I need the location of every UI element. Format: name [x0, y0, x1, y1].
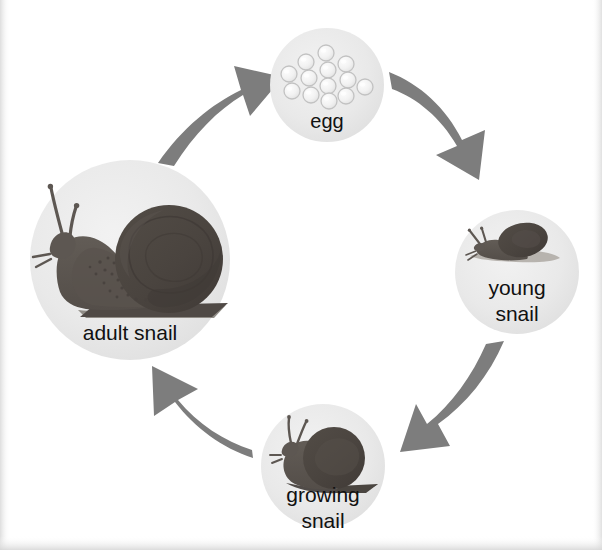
stage-adult-snail[interactable]: adult snail — [30, 160, 230, 360]
stage-growing-snail[interactable]: growing snail — [261, 404, 385, 532]
arrow-young-to-growing — [400, 341, 504, 452]
stage-young-snail[interactable]: young snail — [455, 210, 579, 334]
arrow-egg-to-young — [389, 72, 485, 180]
arrow-adult-to-egg — [158, 66, 283, 166]
stage-label-growing-snail-line1: growing — [286, 483, 360, 506]
stage-label-egg: egg — [310, 110, 343, 132]
life-cycle-canvas: egg — [0, 0, 602, 550]
arrow-growing-to-adult — [152, 366, 253, 458]
stage-label-growing-snail-line2: snail — [301, 509, 344, 532]
stage-egg[interactable]: egg — [270, 28, 384, 142]
stage-label-young-snail-line2: snail — [495, 302, 538, 325]
stage-label-young-snail-line1: young — [488, 276, 545, 299]
stage-label-adult-snail: adult snail — [83, 321, 178, 344]
life-cycle-diagram: egg — [0, 0, 602, 550]
